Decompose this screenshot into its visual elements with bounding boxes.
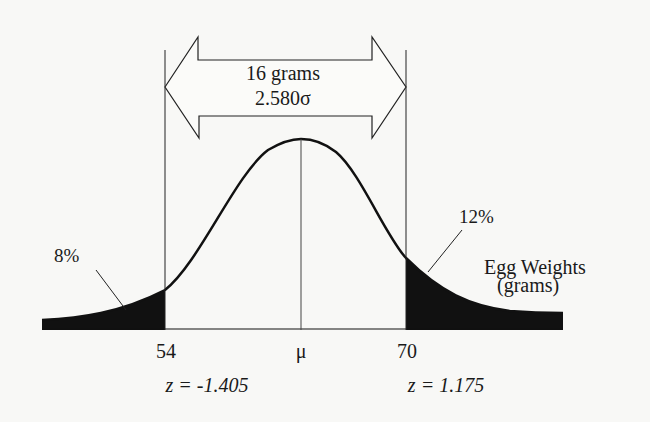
mean-label: μ [296,340,307,363]
right-tail-leader [428,230,462,272]
bell-curve [42,139,563,320]
left-tail-leader [96,270,126,310]
diagram-canvas: 16 grams 2.580σ 8% 12% Egg Weights (gram… [0,0,650,422]
axis-label-line2: (grams) [497,274,559,297]
right-value-label: 70 [397,340,417,362]
left-value-label: 54 [156,340,176,362]
right-z-score: z = 1.175 [407,374,484,396]
left-z-score: z = -1.405 [165,374,249,396]
left-tail-shading [42,290,165,330]
right-tail-percent: 12% [459,206,494,227]
normal-curve-diagram: 16 grams 2.580σ 8% 12% Egg Weights (gram… [0,0,650,422]
left-tail-percent: 8% [54,245,80,266]
span-sigma-label: 2.580σ [255,87,311,109]
span-grams-label: 16 grams [246,62,320,85]
